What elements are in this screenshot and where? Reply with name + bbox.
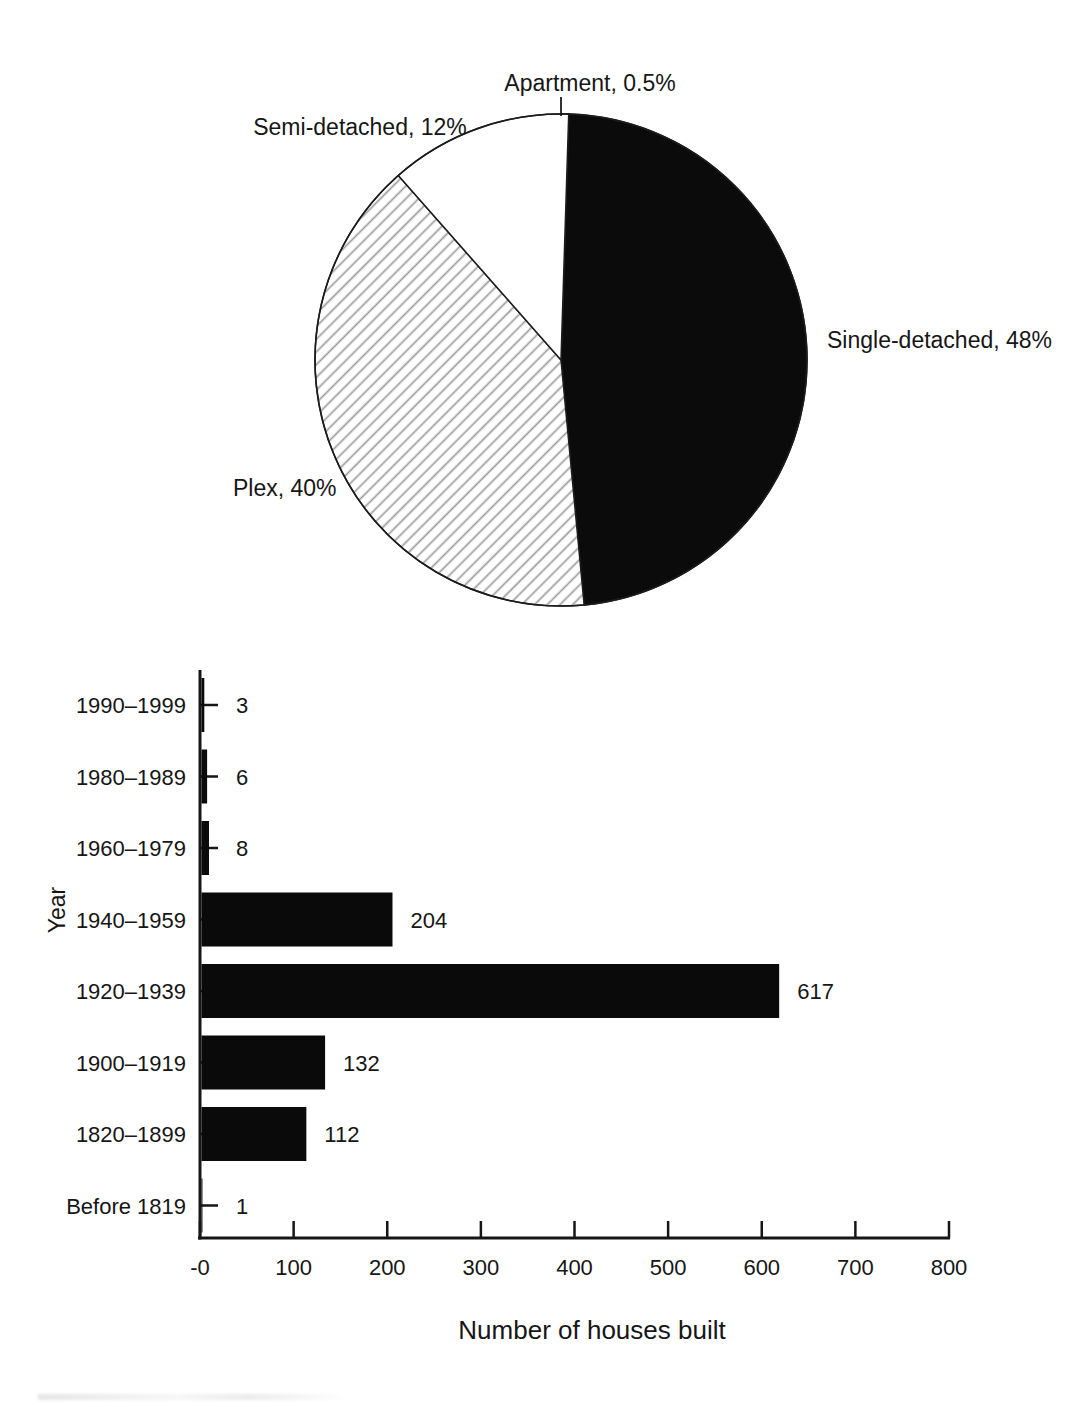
pie-label-plex: Plex, 40% — [233, 475, 337, 502]
x-tick-label: 600 — [743, 1255, 780, 1280]
bar-1940-1959 — [202, 893, 393, 947]
category-label-1940-1959: 1940–1959 — [76, 908, 186, 933]
x-tick-label: 700 — [837, 1255, 874, 1280]
value-label-1960-1979: 8 — [236, 836, 248, 861]
pie-label-apartment: Apartment, 0.5% — [504, 70, 675, 97]
category-label-1820-1899: 1820–1899 — [76, 1122, 186, 1147]
value-label-1990-1999: 3 — [236, 693, 248, 718]
value-label-before-1819: 1 — [236, 1194, 248, 1219]
value-label-1820-1899: 112 — [324, 1122, 359, 1147]
bar-graphic: -01002003004005006007008001990–199931980… — [0, 660, 1069, 1340]
value-label-1900-1919: 132 — [343, 1051, 380, 1076]
pie-label-single-detached: Single-detached, 48% — [827, 327, 1052, 354]
bar-1960-1979 — [202, 821, 209, 875]
category-label-1980-1989: 1980–1989 — [76, 765, 186, 790]
category-label-1920-1939: 1920–1939 — [76, 979, 186, 1004]
bar-1900-1919 — [202, 1036, 326, 1090]
y-axis-title: Year — [44, 887, 71, 933]
scanned-figure-page: Apartment, 0.5% Semi-detached, 12% Singl… — [0, 0, 1069, 1403]
value-label-1920-1939: 617 — [797, 979, 834, 1004]
pie-slice-single-detached — [561, 114, 807, 605]
bar-before-1819 — [202, 1179, 203, 1233]
x-tick-label: 300 — [463, 1255, 500, 1280]
value-label-1980-1989: 6 — [236, 765, 248, 790]
bar-1920-1939 — [202, 964, 780, 1018]
x-tick-label: 100 — [275, 1255, 312, 1280]
bar-1820-1899 — [202, 1107, 307, 1161]
x-tick-label: 400 — [556, 1255, 593, 1280]
x-tick-label: 800 — [931, 1255, 968, 1280]
x-axis-title: Number of houses built — [458, 1315, 725, 1346]
x-tick-label: 500 — [650, 1255, 687, 1280]
x-tick-label: -0 — [190, 1255, 210, 1280]
bar-1990-1999 — [202, 678, 205, 732]
x-tick-label: 200 — [369, 1255, 406, 1280]
value-label-1940-1959: 204 — [410, 908, 447, 933]
category-label-1960-1979: 1960–1979 — [76, 836, 186, 861]
category-label-1900-1919: 1900–1919 — [76, 1051, 186, 1076]
bar-1980-1989 — [202, 750, 208, 804]
cropped-caption-remnant — [38, 1394, 538, 1400]
category-label-1990-1999: 1990–1999 — [76, 693, 186, 718]
pie-label-semi-detached: Semi-detached, 12% — [253, 114, 467, 141]
category-label-before-1819: Before 1819 — [66, 1194, 186, 1219]
